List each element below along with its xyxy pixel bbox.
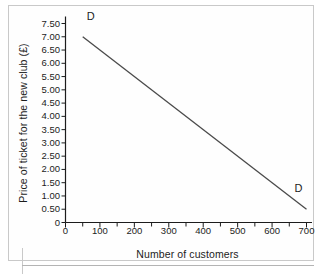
y-tick-label: 2.50	[30, 151, 60, 161]
y-tick-label: 7.00	[30, 32, 60, 42]
x-axis-title: Number of customers	[65, 248, 310, 260]
y-tick-label: 0.50	[30, 204, 60, 214]
curve-label-D: D	[87, 11, 95, 22]
demand-line-D	[83, 37, 307, 209]
y-tick-label: 4.00	[30, 111, 60, 121]
y-tick-label: 3.50	[30, 125, 60, 135]
y-tick-label: 4.50	[30, 98, 60, 108]
x-tick-label: 700	[287, 226, 323, 236]
axes-group	[66, 17, 313, 223]
y-tick-label: 5.50	[30, 72, 60, 82]
y-tick-label: 2.00	[30, 164, 60, 174]
y-tick-label: 1.00	[30, 191, 60, 201]
y-tick-label: 5.00	[30, 85, 60, 95]
demand-curve-chart: 00.501.001.502.002.503.003.504.004.505.0…	[0, 0, 323, 274]
data-series-group	[83, 37, 307, 209]
curve-label-D: D	[295, 183, 303, 194]
y-tick-label: 6.00	[30, 58, 60, 68]
y-tick-label: 6.50	[30, 45, 60, 55]
y-tick-label: 7.50	[30, 19, 60, 29]
y-tick-label: 1.50	[30, 178, 60, 188]
y-axis-title: Price of ticket for the new club (£)	[17, 23, 29, 223]
y-tick-label: 3.00	[30, 138, 60, 148]
tick-marks-group	[62, 24, 307, 228]
